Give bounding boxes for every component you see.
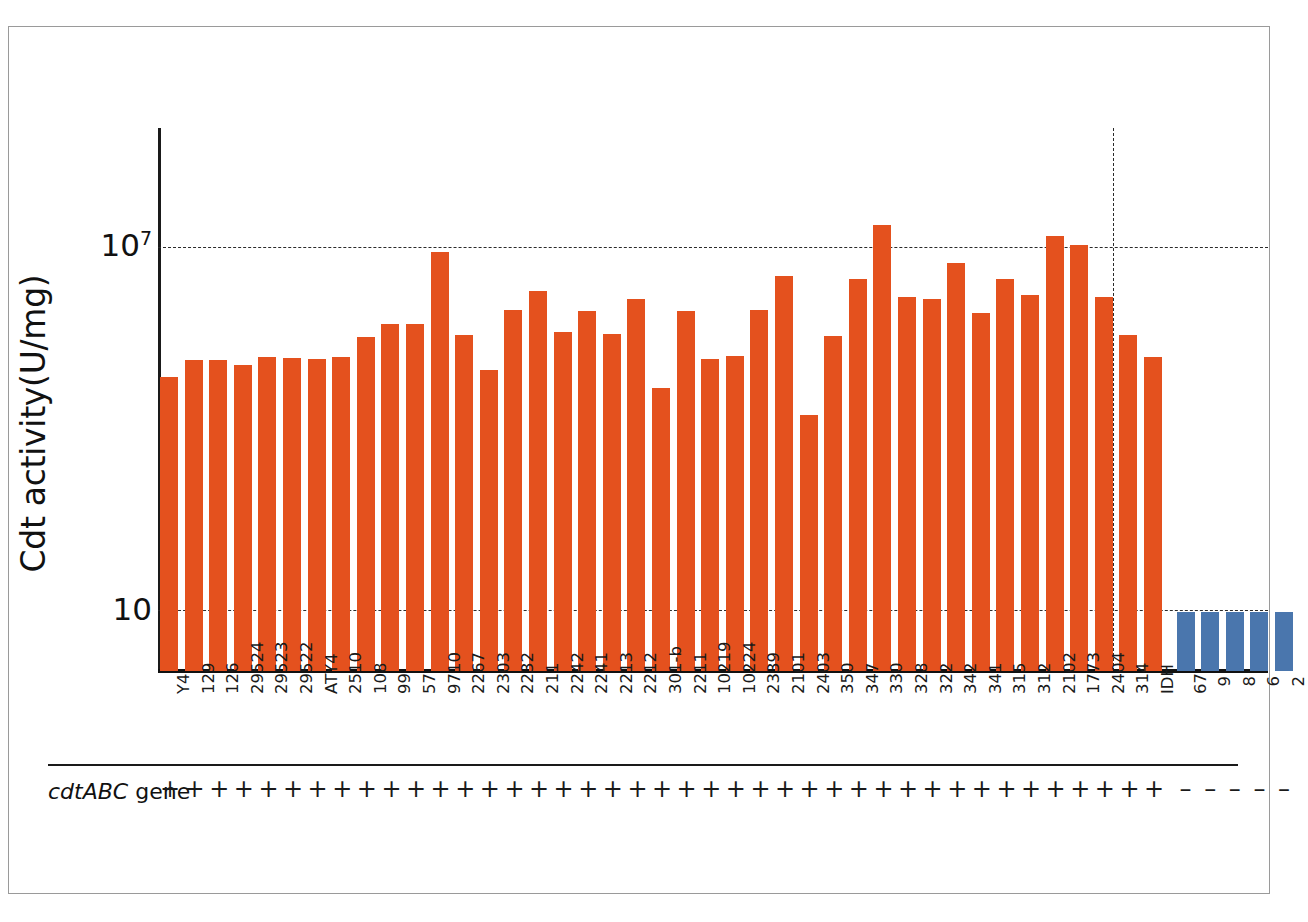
bar-341	[972, 313, 990, 671]
bar-2211	[677, 311, 695, 671]
bar-67	[1177, 612, 1195, 671]
x-tick-label-347: 347	[864, 676, 882, 694]
bar-29524	[234, 365, 252, 671]
gene-sign-2102: +	[1046, 776, 1064, 802]
bar-347	[849, 279, 867, 671]
x-tick-label-211: 211	[544, 676, 562, 694]
gene-sign-2403: +	[800, 776, 818, 802]
x-tick-label-2267: 2267	[470, 676, 488, 694]
gene-sign-211: +	[529, 776, 547, 802]
x-tick-label-330: 330	[888, 676, 906, 694]
x-tick-label-6: 6	[1265, 676, 1283, 694]
x-tick-label-341: 341	[987, 676, 1005, 694]
gene-sign-2241: +	[578, 776, 596, 802]
gene-sign-57: +	[406, 776, 424, 802]
bar-6	[1250, 612, 1268, 671]
bar-2242	[554, 332, 572, 671]
bar-IDH	[1144, 357, 1162, 671]
x-tick-label-67: 67	[1192, 676, 1210, 694]
gene-sign-342: +	[947, 776, 965, 802]
bar-2267	[455, 335, 473, 671]
gene-sign-2212: +	[627, 776, 645, 802]
bar-ATY4	[308, 359, 326, 671]
bar-211	[529, 291, 547, 671]
x-axis-labels: Y4129126295242952329522ATY42510108995797…	[160, 676, 1270, 756]
x-tick-label-2404: 2404	[1110, 676, 1128, 694]
gene-sign-1773: +	[1070, 776, 1088, 802]
x-tick-label-2241: 2241	[593, 676, 611, 694]
gene-sign-328: +	[898, 776, 916, 802]
bar-108	[357, 337, 375, 671]
bar-8	[1226, 612, 1244, 671]
gene-sign-129: +	[185, 776, 203, 802]
gene-sign-2303: +	[480, 776, 498, 802]
gene-presence-row: ++++++++++++++++++++++++++++++++++++++++…	[160, 776, 1270, 806]
bar-9	[1201, 612, 1219, 671]
gene-sign-IDH: +	[1144, 776, 1162, 802]
bar-9710	[431, 252, 449, 671]
x-tick-label-312: 312	[1036, 676, 1054, 694]
gene-sign-341: +	[972, 776, 990, 802]
bar-2339	[750, 310, 768, 671]
bar-129	[185, 360, 203, 671]
bar-2404	[1095, 297, 1113, 671]
gene-sign-330: +	[873, 776, 891, 802]
x-tick-label-328: 328	[913, 676, 931, 694]
x-tick-label-2510: 2510	[347, 676, 365, 694]
bar-328	[898, 297, 916, 671]
y-axis-title: Cdt activity(U/mg)	[14, 224, 53, 624]
x-tick-label-10224: 10224	[741, 676, 759, 694]
x-tick-label-350: 350	[839, 676, 857, 694]
gene-sign-10219: +	[701, 776, 719, 802]
bar-315	[996, 279, 1014, 671]
x-tick-label-8: 8	[1241, 676, 1259, 694]
gene-sign-315: +	[996, 776, 1014, 802]
gene-sign-29522: +	[283, 776, 301, 802]
bar-2213	[603, 334, 621, 671]
gene-sign-322: +	[923, 776, 941, 802]
gene-sign-29523: +	[258, 776, 276, 802]
x-tick-label-2: 2	[1290, 676, 1308, 694]
bar-29523	[258, 357, 276, 671]
gene-row-rule	[48, 764, 1238, 766]
x-tick-label-ATY4: ATY4	[323, 676, 341, 694]
bar-301-b	[652, 388, 670, 671]
gene-sign-2267: +	[455, 776, 473, 802]
gene-sign-2: –	[1275, 776, 1293, 802]
bar-342	[947, 263, 965, 671]
x-tick-label-2403: 2403	[815, 676, 833, 694]
x-tick-label-2303: 2303	[495, 676, 513, 694]
gene-sign-2242: +	[554, 776, 572, 802]
x-tick-label-129: 129	[200, 676, 218, 694]
bar-2510	[332, 357, 350, 671]
bar-314	[1119, 335, 1137, 671]
bar-312	[1021, 295, 1039, 671]
x-tick-label-9710: 9710	[446, 676, 464, 694]
gene-sign-312: +	[1021, 776, 1039, 802]
gene-sign-8: –	[1226, 776, 1244, 802]
x-tick-label-315: 315	[1011, 676, 1029, 694]
bar-Y4	[160, 377, 178, 671]
gene-sign-2339: +	[750, 776, 768, 802]
x-tick-label-2211: 2211	[692, 676, 710, 694]
x-tick-label-342: 342	[962, 676, 980, 694]
x-tick-label-314: 314	[1134, 676, 1152, 694]
gene-sign-2510: +	[332, 776, 350, 802]
y-tick-label-10: 10	[100, 594, 152, 625]
x-tick-label-2232: 2232	[519, 676, 537, 694]
bar-2212	[627, 299, 645, 671]
x-tick-label-9: 9	[1216, 676, 1234, 694]
bar-330	[873, 225, 891, 671]
gene-sign-2101: +	[775, 776, 793, 802]
gene-sign-2404: +	[1095, 776, 1113, 802]
gene-sign-126: +	[209, 776, 227, 802]
x-tick-label-1773: 1773	[1085, 676, 1103, 694]
x-tick-label-2102: 2102	[1061, 676, 1079, 694]
gene-sign-6: –	[1250, 776, 1268, 802]
x-tick-label-301-b: 301-b	[667, 676, 685, 694]
gene-sign-29524: +	[234, 776, 252, 802]
x-tick-label-2339: 2339	[765, 676, 783, 694]
bar-322	[923, 299, 941, 671]
gene-sign-2211: +	[677, 776, 695, 802]
